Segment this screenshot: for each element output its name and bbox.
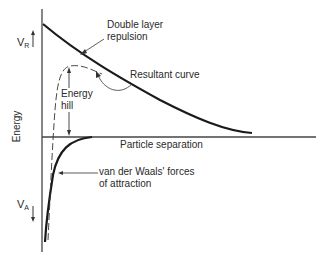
attraction-curve xyxy=(45,137,92,242)
energy-hill-arrowhead-top-icon xyxy=(67,67,71,73)
repulsion-pointer-icon xyxy=(84,39,104,52)
energy-hill-label: Energy hill xyxy=(61,88,93,112)
resultant-label: Resultant curve xyxy=(130,69,199,81)
attraction-symbol: VA xyxy=(17,198,29,214)
repulsion-label: Double layer repulsion xyxy=(107,19,163,43)
y-axis-label: Energy xyxy=(11,107,22,147)
attraction-pointer-head-icon xyxy=(58,171,63,175)
va-sub: A xyxy=(24,204,29,211)
repulsion-label-line2: repulsion xyxy=(107,31,163,43)
resultant-pointer-icon xyxy=(98,75,132,90)
attraction-label: van der Waals' forces of attraction xyxy=(99,166,194,190)
repulsion-label-line1: Double layer xyxy=(107,19,163,31)
vr-arrowhead-icon xyxy=(31,30,35,35)
va-arrowhead-icon xyxy=(31,217,35,222)
repulsion-symbol: VR xyxy=(17,36,29,52)
resultant-pointer-head-icon xyxy=(96,71,101,78)
attraction-label-line2: of attraction xyxy=(99,178,194,190)
energy-hill-line1: Energy xyxy=(61,88,93,100)
dlvo-energy-diagram: Energy VR VA Double layer repulsion Resu… xyxy=(0,0,322,259)
x-axis-label: Particle separation xyxy=(120,139,203,151)
energy-hill-arrowhead-bottom-icon xyxy=(67,130,71,136)
attraction-label-line1: van der Waals' forces xyxy=(99,166,194,178)
vr-sub: R xyxy=(24,42,29,49)
energy-hill-line2: hill xyxy=(61,100,93,112)
